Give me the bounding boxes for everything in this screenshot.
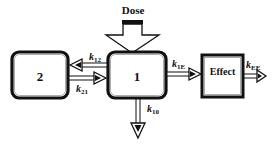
arrow-k10 xyxy=(131,99,145,138)
k12-label: k12 xyxy=(89,51,102,64)
k10-label: k10 xyxy=(147,103,160,116)
k21-label: k21 xyxy=(76,83,89,96)
effect-compartment-label: Effect xyxy=(210,66,236,77)
kee-label: kEE xyxy=(246,59,261,72)
compartment-2-label: 2 xyxy=(37,69,44,84)
dose-label: Dose xyxy=(122,4,145,16)
compartment-1-label: 1 xyxy=(134,69,141,84)
compartment-diagram: Dose 2 1 Effect k12 k21 k1E xyxy=(0,0,272,145)
k1e-label: k1E xyxy=(172,58,186,71)
arrow-k21 xyxy=(69,72,106,84)
dose-arrow xyxy=(106,20,159,53)
